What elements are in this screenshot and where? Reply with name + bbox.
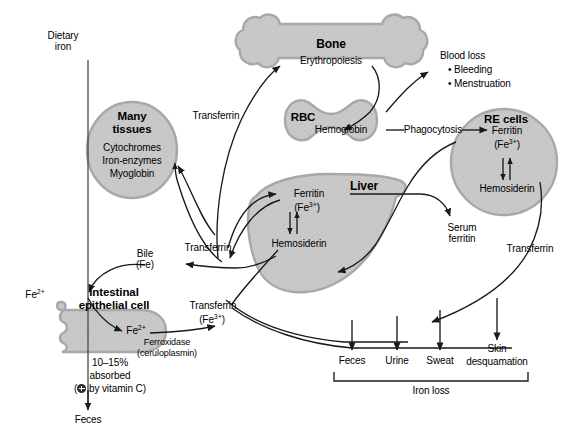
bile-label: Bile (Fe): [136, 248, 154, 270]
feces-left-label: Feces: [75, 414, 102, 425]
dietary-iron-label: Dietary iron: [48, 30, 79, 52]
iron-metabolism-diagram: Dietary iron Many tissues Cytochromes Ir…: [0, 0, 574, 437]
transferrin-right-label: Transferrin: [507, 243, 554, 254]
hemoglobin-label: Hemoglobin: [315, 124, 367, 135]
iron-loss-output-sweat: Sweat: [426, 355, 453, 366]
iron-loss-bracket-label: Iron loss: [413, 385, 450, 396]
iron-loss-output-skin: Skin desquamation: [466, 343, 528, 368]
intestinal-cell-title: Intestinal epithelial cell: [79, 286, 150, 312]
arrow-hemoglobin-to-blood-loss: [386, 72, 428, 112]
blood-loss-heading: Blood loss: [440, 50, 485, 61]
liver-hemosiderin-label: Hemosiderin: [271, 238, 326, 249]
vitamin-c-note: ( by vitamin C): [74, 382, 146, 395]
intestinal-cell-fe2-label: Fe2+: [126, 324, 145, 337]
blood-loss-items: • Bleeding • Menstruation: [448, 63, 511, 90]
bone-title: Bone: [316, 38, 346, 51]
re-cells-ferritin-label: Ferritin: [492, 125, 522, 136]
transferrin-to-bone-label: Transferrin: [193, 110, 240, 121]
many-tissues-title: Many tissues: [113, 110, 152, 136]
many-tissues-contents: Cytochromes Iron-enzymes Myoglobin: [102, 142, 161, 180]
absorption-note: 10–15% absorbed ( by vitamin C): [74, 356, 146, 395]
liver-ferritin-label: Ferritin: [294, 188, 324, 199]
iron-loss-output-feces: Feces: [339, 355, 366, 366]
increase-circle-icon: [77, 384, 86, 393]
transferrin-fe3-label: Transferrin: [190, 300, 237, 311]
iron-loss-output-urine: Urine: [385, 355, 408, 366]
serum-ferritin-label: Serum ferritin: [448, 222, 477, 244]
transferrin-fe3-ion: (Fe3+): [199, 313, 225, 326]
re-cells-hemosiderin-label: Hemosiderin: [479, 183, 534, 194]
ferroxidase-label: Ferroxidase (ceruloplasmin): [137, 337, 197, 360]
liver-title: Liver: [350, 180, 378, 193]
rbc-title: RBC: [291, 111, 316, 124]
iron-loss-bracket: [334, 372, 528, 381]
transferrin-hub-label: Transferrin: [185, 242, 232, 253]
erythropoiesis-label: Erythropoiesis: [300, 55, 362, 66]
phagocytosis-label: Phagocytosis: [404, 124, 462, 135]
re-cells-title: RE cells: [484, 113, 528, 126]
liver-ferritin-ion: (Fe3+): [294, 201, 320, 214]
re-cells-ferritin-ion: (Fe3+): [494, 138, 520, 151]
lumen-fe2-label: Fe2+: [25, 288, 44, 301]
